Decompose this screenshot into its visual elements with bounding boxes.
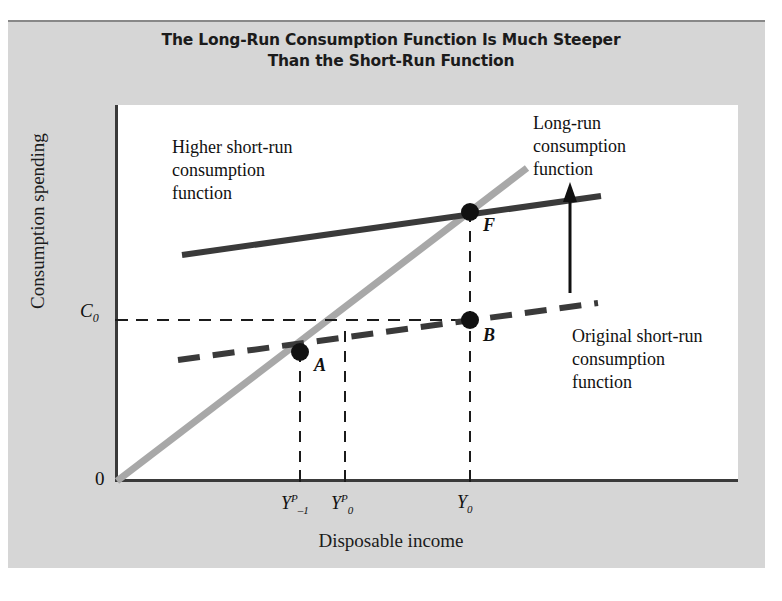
- annotation-original-short-run: Original short-run consumption function: [572, 325, 702, 394]
- x-axis-title: Disposable income: [0, 530, 782, 552]
- x-tick-label-y-p-0: YP0: [331, 492, 353, 516]
- x-tick-label-y-0: Y0: [457, 492, 473, 515]
- y-axis-title: Consumption spending: [27, 91, 49, 351]
- x-tick-label-y-p-0-sub: 0: [348, 504, 354, 516]
- figure-container: The Long-Run Consumption Function Is Muc…: [0, 0, 782, 601]
- point-label-b: B: [483, 325, 495, 346]
- annotation-long-run: Long-run consumption function: [533, 112, 626, 181]
- x-tick-label-y-0-sub: 0: [467, 503, 473, 515]
- chart-title-line-2: Than the Short-Run Function: [0, 51, 782, 72]
- y-tick-label-c0-sub: 0: [93, 311, 99, 325]
- point-label-f: F: [483, 215, 495, 236]
- annotation-higher-short-run: Higher short-run consumption function: [172, 136, 292, 205]
- x-tick-label-y-p-0-sup: P: [341, 492, 348, 504]
- y-tick-label-c0: C0: [80, 300, 99, 326]
- chart-title: The Long-Run Consumption Function Is Muc…: [0, 30, 782, 72]
- x-tick-label-y-p-0-base: Y: [331, 493, 341, 513]
- point-label-a: A: [314, 355, 326, 376]
- chart-title-line-1: The Long-Run Consumption Function Is Muc…: [0, 30, 782, 51]
- x-tick-label-y-p-minus-1-sup: P: [291, 492, 298, 504]
- x-tick-label-y-0-base: Y: [457, 492, 467, 512]
- x-tick-label-y-p-minus-1-sub: –1: [298, 504, 309, 516]
- origin-label: 0: [95, 468, 105, 490]
- y-tick-label-c0-base: C: [80, 300, 93, 321]
- x-tick-label-y-p-minus-1-base: Y: [281, 493, 291, 513]
- x-tick-label-y-p-minus-1: YP–1: [281, 492, 309, 516]
